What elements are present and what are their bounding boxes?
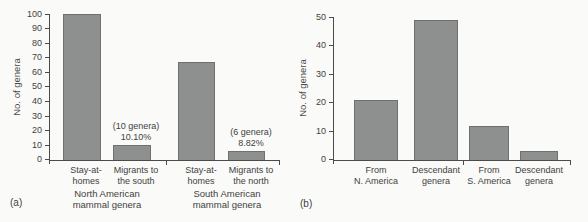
y-tick-mark (329, 74, 334, 75)
bar-migrants-to-south (113, 145, 151, 160)
y-tick-label: 60 (22, 68, 42, 77)
figure-canvas: { "figure": { "panel_a_label": "(a)", "p… (0, 0, 588, 222)
y-tick-mark (45, 145, 50, 146)
annotation-line: (6 genera) (206, 127, 296, 138)
y-tick-label: 40 (306, 41, 326, 50)
group-label-north-american: North American mammal genera (47, 189, 167, 210)
y-tick-label: 10 (306, 127, 326, 136)
y-tick-label: 100 (22, 10, 42, 19)
annotation-line: 8.82% (206, 138, 296, 149)
panel-a: No. of genera 100 90 80 70 60 50 40 30 2… (0, 0, 294, 222)
y-tick-mark (45, 57, 50, 58)
y-tick-mark (45, 43, 50, 44)
y-tick-label: 80 (22, 39, 42, 48)
y-axis-label: No. of genera (11, 58, 22, 116)
y-tick-label: 20 (306, 98, 326, 107)
panel-letter-b: (b) (300, 198, 312, 209)
category-label: Migrants to the north (209, 165, 293, 186)
group-line: North American (47, 189, 167, 200)
plot-area: 100 90 80 70 60 50 40 30 20 10 0 (10 gen… (49, 14, 280, 161)
bar-annotation: (10 genera) 10.10% (91, 121, 181, 142)
category-line: genera (499, 176, 579, 187)
group-line: mammal genera (167, 200, 287, 211)
panel-b: No. of genera 50 40 30 20 10 0 From N. A… (294, 0, 588, 222)
category-label: Descendant genera (499, 165, 579, 186)
bar-descendant-genera-sa (520, 151, 558, 160)
group-label-south-american: South American mammal genera (167, 189, 287, 210)
bar-from-s-america (469, 126, 509, 160)
y-axis-ticks: 100 90 80 70 60 50 40 30 20 10 0 (22, 14, 50, 160)
y-tick-mark (329, 45, 334, 46)
annotation-line: (10 genera) (91, 121, 181, 132)
y-tick-mark (329, 131, 334, 132)
bar-from-n-america (354, 100, 398, 160)
y-tick-mark (45, 28, 50, 29)
y-tick-mark (45, 72, 50, 73)
plot-area: 50 40 30 20 10 0 From N. America Descend… (333, 17, 571, 161)
y-tick-label: 50 (22, 82, 42, 91)
panel-letter-a: (a) (10, 197, 22, 208)
y-tick-mark (45, 116, 50, 117)
bar-descendant-genera-na (414, 20, 458, 160)
bar-annotation: (6 genera) 8.82% (206, 127, 296, 148)
x-axis-origin-tick (333, 160, 334, 164)
y-tick-label: 0 (306, 155, 326, 164)
y-axis-ticks: 50 40 30 20 10 0 (306, 17, 334, 160)
group-line: mammal genera (47, 200, 167, 211)
y-tick-label: 30 (306, 70, 326, 79)
category-line: Migrants to (209, 165, 293, 176)
y-tick-label: 90 (22, 24, 42, 33)
y-tick-label: 70 (22, 53, 42, 62)
bar-migrants-to-north (228, 151, 265, 160)
y-tick-mark (45, 14, 50, 15)
x-axis-origin-tick (49, 160, 50, 164)
y-tick-mark (45, 130, 50, 131)
annotation-line: 10.10% (91, 132, 181, 143)
y-tick-mark (45, 101, 50, 102)
y-tick-label: 30 (22, 112, 42, 121)
y-tick-mark (329, 102, 334, 103)
y-tick-label: 0 (22, 155, 42, 164)
category-line: the north (209, 176, 293, 187)
y-tick-label: 10 (22, 141, 42, 150)
category-line: Descendant (499, 165, 579, 176)
y-tick-label: 50 (306, 13, 326, 22)
y-tick-label: 20 (22, 126, 42, 135)
y-tick-mark (45, 86, 50, 87)
y-tick-mark (329, 17, 334, 18)
group-line: South American (167, 189, 287, 200)
y-tick-label: 40 (22, 97, 42, 106)
